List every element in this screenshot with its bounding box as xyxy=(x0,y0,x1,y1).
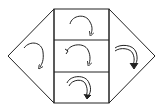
center-rectangle xyxy=(54,9,109,103)
middle-clockwise-arrow-icon xyxy=(67,45,90,64)
left-clockwise-arrow-icon xyxy=(24,43,43,67)
right-triangle xyxy=(109,9,155,103)
bottom-double-clockwise-arrow-icon xyxy=(67,77,91,99)
left-triangle xyxy=(8,9,54,103)
diagram-canvas xyxy=(0,0,163,112)
outline xyxy=(8,9,155,103)
top-clockwise-arrow-icon xyxy=(70,16,92,34)
right-double-clockwise-arrow-icon xyxy=(115,45,138,69)
